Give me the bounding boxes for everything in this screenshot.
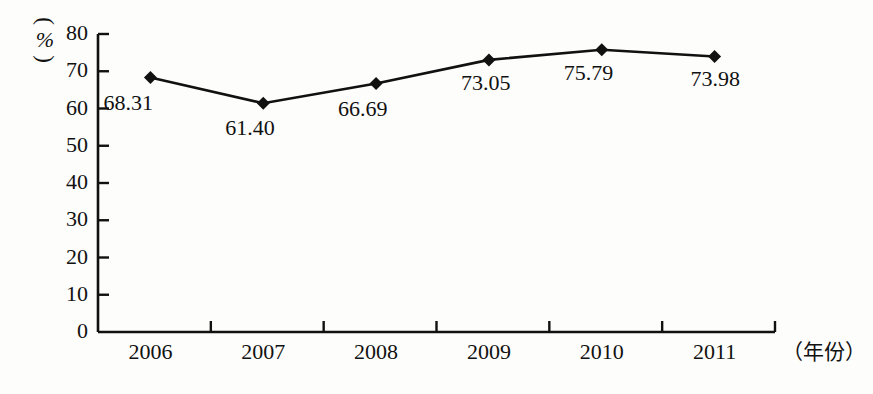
data-marker-2011 <box>708 50 721 63</box>
series-line <box>150 50 714 104</box>
data-series-group <box>150 50 714 104</box>
data-marker-2006 <box>144 71 157 84</box>
data-marker-2008 <box>370 77 383 90</box>
axes-group <box>98 34 775 332</box>
data-marker-2010 <box>595 43 608 56</box>
data-markers-group <box>144 43 721 110</box>
plot-area <box>0 0 873 394</box>
data-marker-2007 <box>257 97 270 110</box>
line-chart: ( % ) 01020304050607080 2006200720082009… <box>0 0 873 394</box>
data-marker-2009 <box>482 53 495 66</box>
